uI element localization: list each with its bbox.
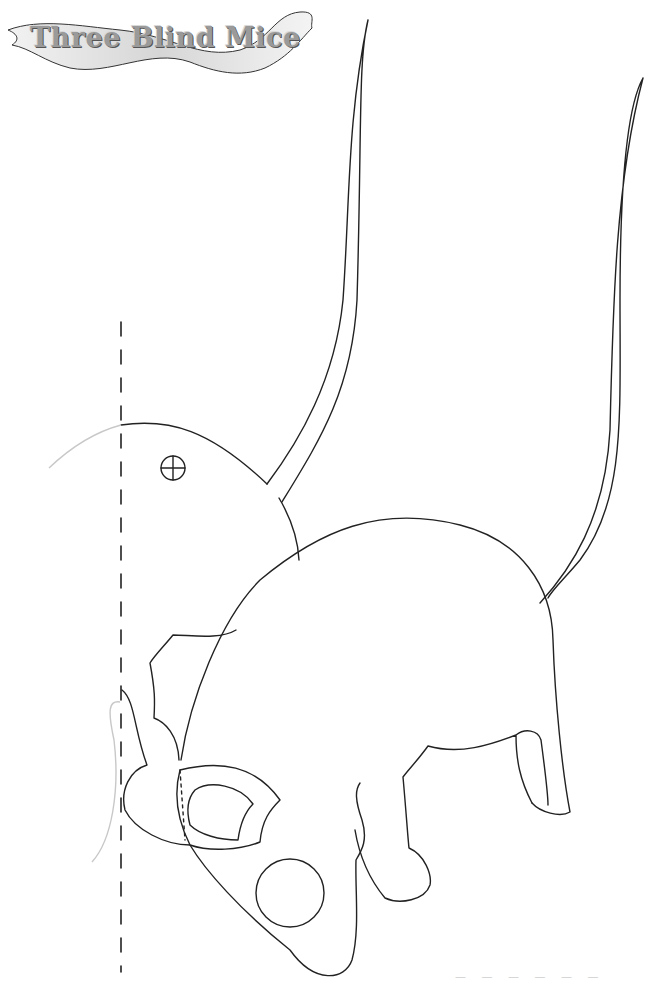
- tail-back: [267, 20, 368, 502]
- guide-curve-top: [49, 425, 121, 468]
- hind-leg: [355, 731, 548, 901]
- mouse-head: [122, 690, 364, 976]
- mouse-template-drawing: [0, 0, 658, 986]
- footer-text: — — — — — —: [455, 970, 604, 983]
- ear-fold-line: [180, 770, 185, 840]
- ear-outer: [177, 765, 280, 849]
- nose-circle: [256, 859, 324, 927]
- front-mouse-body: [181, 518, 570, 814]
- crosshair-icon: [161, 456, 185, 480]
- guide-curve-bottom: [92, 702, 120, 862]
- back-mouse-body: [121, 423, 299, 560]
- ear-inner: [188, 785, 253, 840]
- front-paw: [150, 630, 236, 760]
- tail-front: [540, 78, 643, 603]
